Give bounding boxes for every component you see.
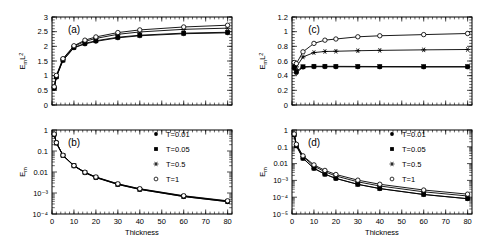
y-tick-label: 10⁻³: [273, 176, 288, 185]
data-point-open-circle: [312, 41, 316, 45]
y-axis-label: Em: [18, 167, 28, 177]
data-point-filled-square: [294, 69, 298, 73]
y-label-subscript: m: [262, 167, 268, 172]
data-point-open-circle: [294, 61, 298, 65]
y-tick-label: 2: [44, 42, 48, 51]
y-tick-label: 1: [44, 126, 48, 135]
data-point-open-circle: [225, 199, 229, 203]
data-point-asterisk: [377, 48, 382, 53]
data-point-open-circle: [301, 50, 305, 54]
y-tick-label: 0.6: [278, 57, 288, 66]
y-axis-label-text: Em: [258, 167, 268, 177]
y-tick-label: 0: [44, 101, 48, 110]
data-point-open-circle: [52, 85, 56, 89]
data-point-open-circle: [465, 192, 469, 196]
data-point-open-circle: [465, 31, 469, 35]
panel-c: 00.20.40.60.811.2EmL2(c): [258, 13, 473, 110]
data-point-open-circle: [138, 28, 142, 32]
data-point-asterisk: [355, 48, 360, 53]
data-point-open-circle: [61, 153, 65, 157]
data-point-open-circle: [422, 188, 426, 192]
y-tick-label: 10⁻⁵: [273, 210, 288, 219]
data-point-open-circle: [323, 168, 327, 172]
x-tick-label: 50: [398, 217, 406, 226]
panel-a: 00.511.522.53EmL2(a): [18, 13, 233, 110]
data-point-open-circle: [94, 175, 98, 179]
x-tick-label: 0: [50, 217, 54, 226]
x-tick-label: 20: [92, 217, 100, 226]
data-point-open-circle: [182, 194, 186, 198]
data-point-open-circle: [378, 34, 382, 38]
y-tick-label: 0.2: [278, 86, 288, 95]
series-T-0-05: [292, 64, 470, 73]
data-point-asterisk: [311, 50, 316, 55]
data-point-open-circle: [83, 170, 87, 174]
panel-label: (d): [308, 137, 320, 148]
x-tick-label: 60: [420, 217, 428, 226]
data-point-open-circle: [182, 25, 186, 29]
data-point-asterisk: [421, 48, 426, 53]
y-label-superscript: 2: [258, 53, 264, 56]
data-point-open-circle: [312, 163, 316, 167]
x-tick-label: 10: [70, 217, 78, 226]
legend-label: T=0.01: [402, 130, 426, 139]
data-point-open-circle: [72, 163, 76, 167]
data-point-open-circle: [334, 37, 338, 41]
data-point-open-circle: [52, 132, 56, 136]
data-point-open-circle: [301, 154, 305, 158]
data-point-open-circle: [294, 142, 298, 146]
legend-label: T=0.5: [402, 160, 421, 169]
data-point-filled-square: [422, 64, 426, 68]
x-tick-label: 20: [332, 217, 340, 226]
legend-marker-filled-circle: [154, 132, 158, 136]
y-tick-label: 0.8: [278, 42, 288, 51]
data-point-filled-square: [226, 30, 230, 34]
legend-label: T=0.05: [402, 145, 426, 154]
x-tick-label: 80: [463, 217, 471, 226]
y-tick-label: 1: [284, 27, 288, 36]
y-tick-label: 10⁻⁴: [32, 210, 48, 219]
y-tick-label: 1: [284, 126, 288, 135]
x-tick-label: 40: [376, 217, 384, 226]
figure-svg: 00.511.522.53EmL2(a)0102030405060708010⁻…: [0, 0, 489, 250]
x-tick-label: 30: [114, 217, 122, 226]
x-tick-label: 80: [223, 217, 231, 226]
y-tick-label: 0.1: [278, 143, 288, 152]
data-point-filled-square: [422, 192, 426, 196]
y-axis-label-text: Em: [18, 167, 28, 177]
y-axis-label-text: EmL2: [18, 53, 29, 70]
x-tick-label: 40: [136, 217, 144, 226]
data-point-open-circle: [138, 187, 142, 191]
y-tick-label: 1: [44, 71, 48, 80]
data-point-open-circle: [116, 182, 120, 186]
data-point-open-circle: [72, 44, 76, 48]
data-point-asterisk: [322, 49, 327, 54]
data-point-filled-square: [466, 197, 470, 201]
legend-marker-filled-square: [154, 147, 158, 151]
data-point-filled-square: [356, 182, 360, 186]
panel-b: 0102030405060708010⁻⁴10⁻³0.010.11Em(b)Th…: [18, 126, 232, 237]
data-point-open-circle: [54, 140, 58, 144]
data-point-open-circle: [323, 38, 327, 42]
y-tick-label: 0.1: [38, 147, 48, 156]
data-point-open-circle: [422, 32, 426, 36]
data-point-asterisk: [333, 49, 338, 54]
legend-marker-open-circle: [390, 177, 394, 181]
data-point-filled-square: [466, 64, 470, 68]
legend-marker-open-circle: [154, 177, 158, 181]
data-point-open-circle: [225, 23, 229, 27]
y-tick-label: 0.01: [273, 159, 288, 168]
data-point-open-circle: [61, 56, 65, 60]
data-point-asterisk: [465, 47, 470, 52]
data-point-filled-square: [182, 31, 186, 35]
data-point-filled-square: [334, 64, 338, 68]
panel-d: 0102030405060708010⁻⁵10⁻⁴10⁻³0.010.11Em(…: [258, 126, 472, 237]
data-point-open-circle: [116, 30, 120, 34]
y-axis-label: EmL2: [18, 53, 29, 70]
x-tick-label: 60: [180, 217, 188, 226]
series-line: [54, 32, 227, 88]
y-tick-label: 0.4: [278, 71, 288, 80]
panel-label: (a): [68, 24, 80, 35]
x-axis-label: Thickness: [365, 228, 399, 237]
data-point-open-circle: [356, 35, 360, 39]
